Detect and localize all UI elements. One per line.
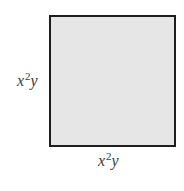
left-label-exponent: 2 <box>25 70 31 82</box>
bottom-label-tail: y <box>112 152 119 169</box>
bottom-side-label: x2y <box>98 153 119 169</box>
bottom-label-exponent: 2 <box>106 150 112 162</box>
left-label-base: x <box>17 72 24 89</box>
shaded-square <box>49 15 176 147</box>
left-side-label: x2y <box>17 73 38 89</box>
bottom-label-base: x <box>98 152 105 169</box>
left-label-tail: y <box>31 72 38 89</box>
